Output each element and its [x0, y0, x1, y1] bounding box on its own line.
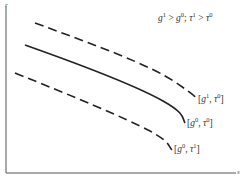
curve-g1-tau0 [35, 23, 197, 100]
curve-g0-tau1 [15, 73, 172, 150]
x-axis-label: s [237, 168, 240, 176]
label-g1-tau0: [g1, τ0] [198, 94, 224, 104]
bracket: ] [221, 94, 224, 104]
gt: > [196, 13, 206, 23]
gt: > [166, 13, 176, 23]
y-axis-label: r [5, 1, 8, 9]
bracket: ] [210, 118, 213, 128]
label-g0-tau0: [g0, τ0] [187, 118, 213, 128]
sup: 0 [209, 11, 212, 18]
curve-g0-tau0 [25, 45, 185, 123]
label-g0-tau1: [g0, τ1] [174, 144, 200, 154]
condition-annotation: g1 > g0; τ1 > τ0 [158, 13, 213, 23]
bracket: ] [197, 144, 200, 154]
